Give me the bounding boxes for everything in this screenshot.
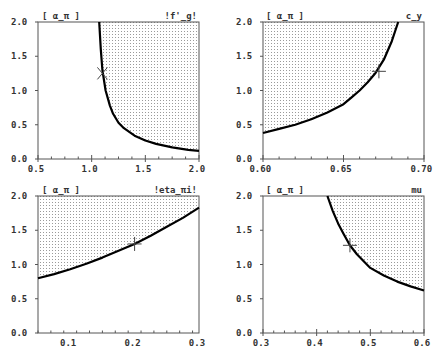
y-tick-label: 1.5 — [236, 51, 252, 61]
panel-1-ylabel: [ α_π ] — [42, 11, 80, 21]
x-tick-label: 0.70 — [410, 164, 432, 174]
panel-4-ylabel: [ α_π ] — [266, 185, 304, 195]
x-tick-label: 0.60 — [249, 164, 271, 174]
y-tick-label: 0.0 — [11, 154, 27, 164]
x-tick-label: 0.1 — [60, 338, 76, 348]
x-tick-label: 0.3 — [253, 338, 269, 348]
y-tick-label: 1.5 — [11, 51, 27, 61]
x-tick-label: 0.3 — [189, 338, 205, 348]
y-tick-label: 1.0 — [236, 86, 252, 96]
y-tick-label: 0.5 — [236, 294, 252, 304]
panel-3-ylabel: [ α_π ] — [42, 185, 80, 195]
y-tick-label: 1.5 — [11, 225, 27, 235]
x-tick-label: 0.2 — [124, 338, 140, 348]
feasible-region — [38, 196, 199, 278]
x-tick-label: 0.65 — [330, 164, 352, 174]
y-tick-label: 1.5 — [236, 225, 252, 235]
chart-grid: [ α_π ] !f'_g! [ α_π ] c_y [ α_π ] !eta_… — [0, 0, 441, 358]
panel-4 — [260, 196, 424, 336]
y-tick-label: 0.0 — [236, 154, 252, 164]
y-tick-label: 1.0 — [236, 260, 252, 270]
y-tick-label: 1.0 — [11, 260, 27, 270]
panel-4-xlabel: mu — [411, 185, 422, 195]
x-tick-label: 1.5 — [135, 164, 151, 174]
feasible-region — [263, 22, 398, 133]
panel-1-xlabel: !f'_g! — [164, 11, 197, 21]
y-tick-label: 1.0 — [11, 86, 27, 96]
panel-3-xlabel: !eta_πi! — [154, 185, 197, 195]
x-tick-label: 0.5 — [360, 338, 376, 348]
y-tick-label: 2.0 — [236, 191, 252, 201]
y-tick-label: 0.5 — [11, 120, 27, 130]
x-tick-label: 1.0 — [81, 164, 97, 174]
y-tick-label: 0.0 — [236, 328, 252, 338]
y-tick-label: 0.5 — [11, 294, 27, 304]
panel-2-ylabel: [ α_π ] — [266, 11, 304, 21]
y-tick-label: 2.0 — [11, 191, 27, 201]
x-tick-label: 0.4 — [306, 338, 322, 348]
y-tick-label: 2.0 — [236, 17, 252, 27]
x-tick-label: 0.5 — [28, 164, 44, 174]
feasible-region — [327, 196, 424, 291]
plot-canvas — [0, 0, 441, 358]
y-tick-label: 2.0 — [11, 17, 27, 27]
x-tick-label: 0.6 — [414, 338, 430, 348]
x-tick-label: 2.0 — [189, 164, 205, 174]
y-tick-label: 0.0 — [11, 328, 27, 338]
panel-2 — [260, 22, 424, 162]
panel-3 — [35, 196, 199, 333]
feasible-region — [99, 22, 199, 151]
y-tick-label: 0.5 — [236, 120, 252, 130]
panel-2-xlabel: c_y — [406, 11, 422, 21]
panel-1 — [35, 22, 199, 162]
